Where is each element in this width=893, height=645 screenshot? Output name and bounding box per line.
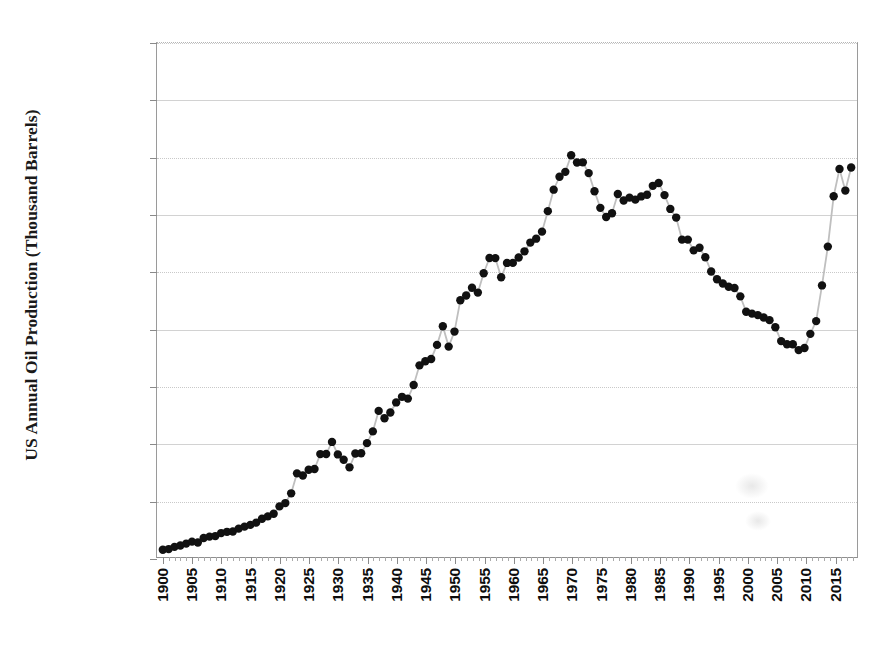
x-tick-minor (684, 557, 685, 561)
data-point (567, 151, 575, 159)
data-point (584, 169, 592, 177)
x-tick-minor (613, 557, 614, 561)
data-point (269, 510, 277, 518)
x-tick-label: 1915 (242, 568, 260, 602)
data-point (654, 179, 662, 187)
y-axis-title: US Annual Oil Production (Thousand Barre… (14, 5, 48, 565)
x-tick-minor (198, 557, 199, 561)
x-tick-label: 1935 (359, 568, 377, 602)
x-tick-label: 1965 (534, 568, 552, 602)
data-point (281, 499, 289, 507)
plot-area: 0500000100000015000002000000250000030000… (156, 42, 858, 558)
x-tick-minor (356, 557, 357, 561)
x-tick-mark (397, 557, 398, 564)
data-point (339, 456, 347, 464)
x-tick-label: 1940 (388, 568, 406, 602)
x-tick-minor (479, 557, 480, 561)
data-point (491, 254, 499, 262)
x-tick-minor (730, 557, 731, 561)
y-tick-mark (150, 43, 157, 44)
x-tick-minor (227, 557, 228, 561)
x-tick-minor (409, 557, 410, 561)
data-point (561, 168, 569, 176)
x-tick-label: 2015 (827, 568, 845, 602)
x-tick-minor (783, 557, 784, 561)
x-tick-minor (490, 557, 491, 561)
y-tick-mark (150, 158, 157, 159)
oil-production-chart-figure: US Annual Oil Production (Thousand Barre… (0, 0, 893, 645)
data-point (771, 323, 779, 331)
data-point (409, 381, 417, 389)
x-tick-minor (701, 557, 702, 561)
data-point (829, 192, 837, 200)
data-point (684, 235, 692, 243)
data-point (450, 327, 458, 335)
x-tick-minor (648, 557, 649, 561)
x-tick-minor (771, 557, 772, 561)
x-tick-label: 1960 (505, 568, 523, 602)
x-tick-minor (567, 557, 568, 561)
x-tick-minor (321, 557, 322, 561)
data-point (497, 273, 505, 281)
x-tick-minor (830, 557, 831, 561)
x-tick-label: 1925 (300, 568, 318, 602)
x-tick-label: 1990 (680, 568, 698, 602)
data-point (835, 165, 843, 173)
x-tick-minor (695, 557, 696, 561)
x-tick-label: 1930 (329, 568, 347, 602)
x-tick-minor (391, 557, 392, 561)
data-point (322, 450, 330, 458)
x-tick-mark (806, 557, 807, 564)
x-tick-mark (338, 557, 339, 564)
x-tick-mark (572, 557, 573, 564)
x-tick-label: 1970 (563, 568, 581, 602)
x-tick-minor (210, 557, 211, 561)
data-point (579, 158, 587, 166)
x-tick-mark (602, 557, 603, 564)
x-tick-mark (221, 557, 222, 564)
x-tick-minor (175, 557, 176, 561)
x-tick-mark (514, 557, 515, 564)
x-tick-minor (801, 557, 802, 561)
x-tick-label: 2000 (739, 568, 757, 602)
data-series (157, 43, 857, 557)
x-tick-minor (438, 557, 439, 561)
x-tick-minor (239, 557, 240, 561)
y-tick-mark (150, 444, 157, 445)
data-point (672, 213, 680, 221)
data-point (707, 267, 715, 275)
data-point (765, 316, 773, 324)
x-tick-mark (689, 557, 690, 564)
series-line (163, 155, 851, 549)
x-tick-minor (713, 557, 714, 561)
x-tick-label: 1950 (446, 568, 464, 602)
x-tick-minor (789, 557, 790, 561)
x-tick-minor (297, 557, 298, 561)
data-point (701, 253, 709, 261)
x-tick-mark (426, 557, 427, 564)
x-tick-minor (765, 557, 766, 561)
x-tick-minor (385, 557, 386, 561)
x-tick-label: 2010 (797, 568, 815, 602)
x-tick-label: 1905 (183, 568, 201, 602)
data-point (363, 439, 371, 447)
data-point (404, 394, 412, 402)
x-tick-mark (660, 557, 661, 564)
x-tick-minor (812, 557, 813, 561)
x-tick-label: 1975 (593, 568, 611, 602)
x-tick-minor (526, 557, 527, 561)
data-point (439, 322, 447, 330)
data-point (730, 284, 738, 292)
x-tick-mark (163, 557, 164, 564)
x-tick-minor (584, 557, 585, 561)
x-tick-minor (461, 557, 462, 561)
x-tick-mark (309, 557, 310, 564)
x-tick-minor (672, 557, 673, 561)
x-tick-label: 1995 (710, 568, 728, 602)
y-tick-mark (150, 100, 157, 101)
x-tick-minor (262, 557, 263, 561)
data-point (590, 187, 598, 195)
data-point (479, 269, 487, 277)
x-tick-mark (280, 557, 281, 564)
x-tick-label: 1945 (417, 568, 435, 602)
